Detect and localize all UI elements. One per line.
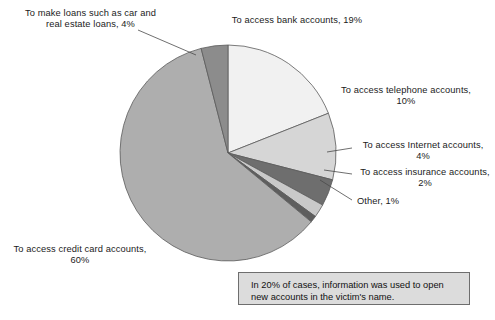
slice-label-make-loans: To make loans such as car and real estat… — [8, 8, 173, 31]
slice-label-other: Other, 1% — [357, 196, 457, 207]
slice-label-insurance-accounts: To access insurance accounts, 2% — [357, 167, 493, 190]
slice-label-internet-accounts: To access Internet accounts, 4% — [357, 140, 489, 163]
callout-text: In 20% of cases, information was used to… — [251, 279, 461, 303]
slice-label-bank-accounts: To access bank accounts, 19% — [222, 15, 372, 26]
pie-slice-group — [120, 45, 336, 261]
slice-label-telephone-accounts: To access telephone accounts, 10% — [330, 85, 482, 108]
callout-box: In 20% of cases, information was used to… — [238, 272, 470, 305]
slice-label-credit-card-accounts: To access credit card accounts, 60% — [4, 244, 156, 267]
leader-line-loans — [138, 30, 196, 55]
pie-chart-figure: To make loans such as car and real estat… — [0, 0, 495, 320]
